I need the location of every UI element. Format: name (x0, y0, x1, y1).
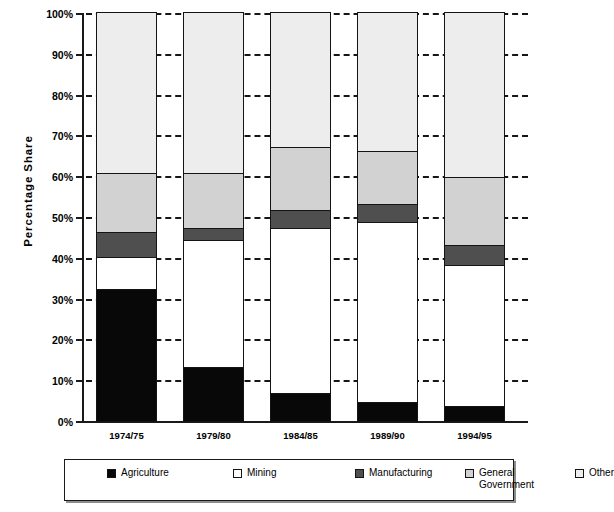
y-tick-label: 80% (52, 90, 73, 102)
bar-segment-mining[interactable] (270, 228, 331, 395)
bar-segment-general-government[interactable] (444, 177, 505, 246)
bar-group (183, 12, 244, 420)
legend: AgricultureMiningManufacturingGeneral Go… (64, 459, 514, 501)
bar-segment-general-government[interactable] (270, 147, 331, 212)
bar-segment-manufacturing[interactable] (357, 204, 418, 224)
y-tick-label: 50% (52, 212, 73, 224)
bar-segment-mining[interactable] (183, 240, 244, 368)
bar-segment-agriculture[interactable] (444, 406, 505, 422)
bar-segment-other[interactable] (357, 12, 418, 152)
legend-item[interactable]: Other (575, 467, 614, 479)
bar-segment-manufacturing[interactable] (96, 232, 157, 258)
legend-item[interactable]: General Government (465, 467, 534, 490)
legend-label: Mining (247, 467, 276, 479)
y-tick-mark (76, 176, 84, 178)
y-axis-title: Percentage Share (22, 111, 34, 271)
plot-area: 100%90%80%70%60%50%40%30%20%10%0% 1974/7… (82, 14, 528, 422)
y-tick-mark (76, 217, 84, 219)
y-tick-label: 20% (52, 334, 73, 346)
bar-segment-general-government[interactable] (96, 173, 157, 234)
bar-segment-agriculture[interactable] (357, 402, 418, 422)
bar-group (270, 12, 331, 420)
bar-segment-manufacturing[interactable] (444, 245, 505, 267)
cropped-top-caption (300, 0, 533, 5)
x-tick-label: 1994/95 (425, 430, 525, 441)
y-tick-label: 60% (52, 171, 73, 183)
bar-segment-agriculture[interactable] (96, 289, 157, 421)
bar-segment-general-government[interactable] (357, 151, 418, 206)
legend-label: General Government (479, 467, 534, 490)
bar-segment-mining[interactable] (444, 265, 505, 407)
x-tick-label: 1989/90 (338, 430, 438, 441)
bar-segment-manufacturing[interactable] (270, 210, 331, 230)
bar-group (444, 12, 505, 420)
y-tick-mark (76, 421, 84, 423)
y-tick-mark (76, 299, 84, 301)
y-tick-label: 90% (52, 49, 73, 61)
y-tick-label: 100% (46, 8, 73, 20)
bar-segment-mining[interactable] (96, 257, 157, 291)
y-tick-label: 70% (52, 130, 73, 142)
legend-swatch-icon (107, 469, 116, 478)
legend-item[interactable]: Agriculture (107, 467, 169, 479)
legend-item[interactable]: Mining (233, 467, 276, 479)
legend-items: AgricultureMiningManufacturingGeneral Go… (65, 467, 513, 507)
legend-item[interactable]: Manufacturing (355, 467, 432, 479)
legend-label: Other (589, 467, 614, 479)
bar-segment-general-government[interactable] (183, 173, 244, 230)
legend-swatch-icon (355, 469, 364, 478)
bar-segment-other[interactable] (444, 12, 505, 179)
legend-swatch-icon (233, 469, 242, 478)
x-tick-label: 1979/80 (164, 430, 264, 441)
y-tick-mark (76, 258, 84, 260)
y-tick-mark (76, 54, 84, 56)
y-tick-mark (76, 135, 84, 137)
y-tick-label: 30% (52, 294, 73, 306)
y-tick-label: 40% (52, 253, 73, 265)
x-tick-label: 1984/85 (251, 430, 351, 441)
bar-segment-mining[interactable] (357, 222, 418, 403)
bar-segment-agriculture[interactable] (183, 367, 244, 422)
stacked-bar[interactable] (357, 12, 418, 420)
y-tick-label: 0% (58, 416, 73, 428)
y-tick-label: 10% (52, 375, 73, 387)
legend-swatch-icon (575, 469, 584, 478)
legend-label: Agriculture (121, 467, 169, 479)
bar-segment-other[interactable] (183, 12, 244, 175)
legend-label: Manufacturing (369, 467, 432, 479)
y-tick-mark (76, 95, 84, 97)
stacked-bar[interactable] (183, 12, 244, 420)
legend-swatch-icon (465, 469, 474, 478)
y-tick-mark (76, 339, 84, 341)
bar-group (357, 12, 418, 420)
y-tick-mark (76, 380, 84, 382)
bar-group (96, 12, 157, 420)
bar-segment-other[interactable] (96, 12, 157, 175)
bar-segment-agriculture[interactable] (270, 393, 331, 421)
stacked-bar[interactable] (96, 12, 157, 420)
stacked-bar[interactable] (270, 12, 331, 420)
bar-segment-other[interactable] (270, 12, 331, 148)
x-tick-label: 1974/75 (77, 430, 177, 441)
y-tick-mark (76, 13, 84, 15)
stacked-bar[interactable] (444, 12, 505, 420)
